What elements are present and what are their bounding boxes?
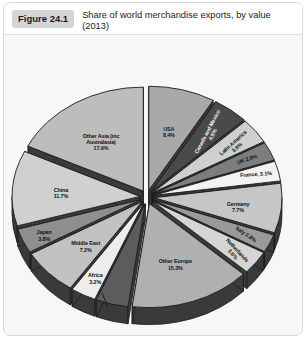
figure-title: Share of world merchandise exports, by v… [82, 10, 282, 33]
figure-card: Figure 24.1 Share of world merchandise e… [3, 2, 303, 336]
figure-number-badge: Figure 24.1 [12, 10, 74, 28]
pie-chart-svg [4, 35, 303, 335]
chart-area: USA 8.4%Canada and Mexico 4.5%Latin Amer… [4, 35, 302, 335]
figure-header: Figure 24.1 Share of world merchandise e… [4, 3, 302, 35]
